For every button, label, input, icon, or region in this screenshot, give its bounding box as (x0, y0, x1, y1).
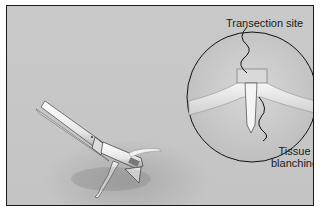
stapler-instrument (36, 101, 161, 198)
label-transection-site: Transection site (226, 17, 303, 29)
label-tissue-blanching: Tissue blanching (271, 145, 314, 169)
illustration-frame: Transection site Tissue blanching (6, 5, 314, 206)
magnified-inset (187, 27, 313, 162)
label-tissue-line1: Tissue (271, 145, 314, 157)
illustration-drawing (7, 6, 313, 205)
label-tissue-line2: blanching (271, 157, 314, 169)
